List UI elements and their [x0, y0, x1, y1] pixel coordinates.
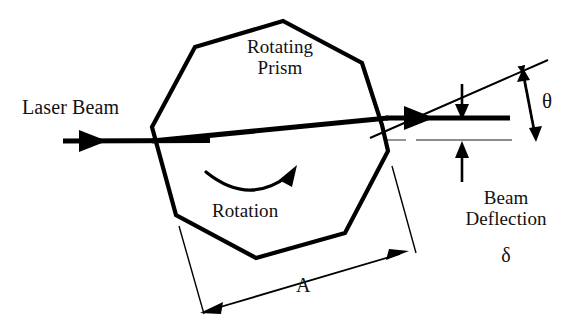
theta-dimension — [517, 68, 542, 142]
dim-a-arrow-right — [386, 249, 409, 260]
dim-a-arrow-left — [200, 302, 223, 314]
label-rotation: Rotation — [212, 200, 278, 221]
label-laser-beam: Laser Beam — [22, 96, 119, 118]
label-beam-deflection-line1: Beam — [440, 187, 572, 208]
label-delta: δ — [440, 244, 572, 266]
label-rotating-prism-line1: Rotating — [220, 36, 340, 57]
label-rotating-prism-line2: Prism — [220, 57, 340, 78]
label-beam-deflection-line2: Deflection — [440, 208, 572, 229]
delta-dimension — [455, 84, 469, 182]
label-rotating-prism: Rotating Prism — [220, 36, 340, 79]
exit-beam-arrowhead — [404, 106, 434, 130]
incoming-beam-arrowhead — [79, 130, 107, 152]
extension-line-right — [392, 166, 416, 253]
diagram-canvas: Laser Beam Rotating Prism Rotation A θ B… — [0, 0, 575, 329]
extension-line-left — [179, 226, 204, 314]
deflection-slant-line — [370, 60, 548, 138]
label-theta: θ — [542, 90, 552, 114]
label-dimension-a: A — [296, 274, 311, 296]
label-beam-deflection: Beam Deflection — [440, 187, 572, 230]
